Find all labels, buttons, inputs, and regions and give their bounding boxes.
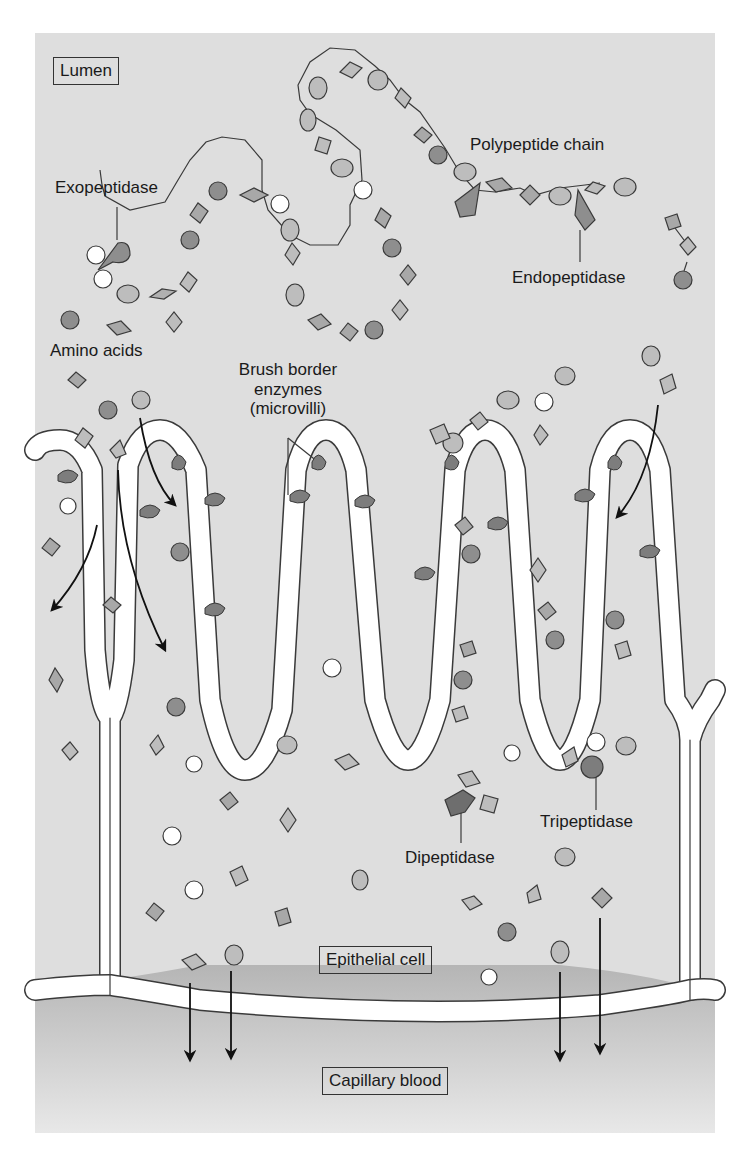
brush-border-label: Brush border enzymes (microvilli) — [228, 360, 348, 419]
protein-digestion-diagram — [0, 0, 750, 1158]
endopeptidase-label: Endopeptidase — [512, 268, 625, 288]
brush-border-line-3: (microvilli) — [228, 399, 348, 419]
polypeptide-chain-label: Polypeptide chain — [470, 135, 604, 155]
brush-border-line-2: enzymes — [228, 380, 348, 400]
brush-border-line-1: Brush border — [228, 360, 348, 380]
capillary-blood-label: Capillary blood — [322, 1067, 448, 1095]
exopeptidase-label: Exopeptidase — [55, 178, 158, 198]
epithelial-cell-label: Epithelial cell — [319, 946, 432, 974]
amino-acids-label: Amino acids — [50, 341, 143, 361]
dipeptidase-label: Dipeptidase — [405, 848, 495, 868]
lumen-label: Lumen — [53, 57, 119, 85]
tripeptidase-label: Tripeptidase — [540, 812, 633, 832]
